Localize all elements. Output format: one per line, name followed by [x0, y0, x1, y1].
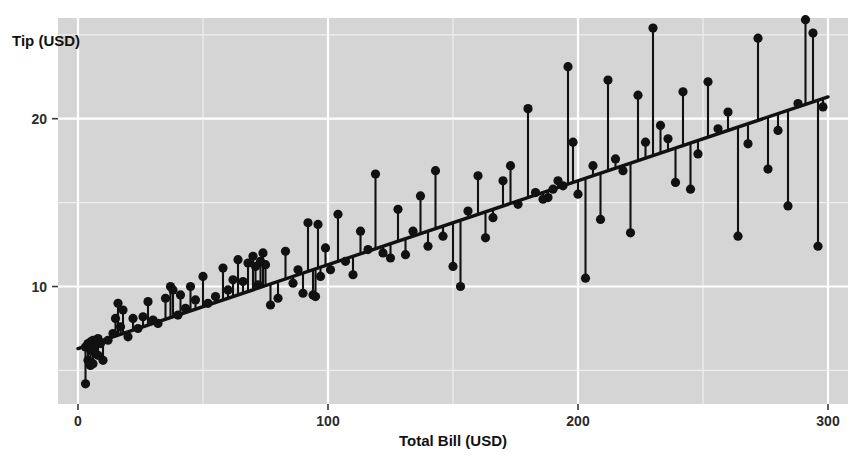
data-point: [386, 253, 395, 262]
data-point: [321, 243, 330, 252]
data-point: [513, 200, 522, 209]
data-point: [316, 272, 325, 281]
y-axis-title: Tip (USD): [12, 32, 80, 49]
data-point: [138, 312, 147, 321]
data-point: [133, 324, 142, 333]
data-point: [456, 282, 465, 291]
data-point: [211, 292, 220, 301]
data-point: [88, 359, 97, 368]
data-point: [463, 206, 472, 215]
data-point: [423, 242, 432, 251]
data-point: [818, 102, 827, 111]
data-point: [543, 193, 552, 202]
data-point: [363, 245, 372, 254]
data-point: [773, 126, 782, 135]
y-tick-label: 10: [31, 279, 47, 295]
data-point: [116, 322, 125, 331]
x-tick-label: 100: [316, 413, 340, 429]
data-point: [233, 255, 242, 264]
data-point: [111, 314, 120, 323]
data-point: [118, 305, 127, 314]
data-point: [808, 29, 817, 38]
data-point: [416, 191, 425, 200]
y-tick-label: 20: [31, 111, 47, 127]
data-point: [168, 285, 177, 294]
data-point: [143, 297, 152, 306]
data-point: [431, 166, 440, 175]
data-point: [98, 356, 107, 365]
data-point: [311, 292, 320, 301]
data-point: [753, 34, 762, 43]
data-point: [253, 280, 262, 289]
data-point: [813, 242, 822, 251]
data-point: [173, 310, 182, 319]
x-tick-label: 200: [566, 413, 590, 429]
data-point: [293, 265, 302, 274]
data-point: [641, 138, 650, 147]
data-point: [371, 169, 380, 178]
data-point: [341, 257, 350, 266]
data-point: [348, 270, 357, 279]
data-point: [438, 232, 447, 241]
data-point: [633, 91, 642, 100]
data-point: [228, 275, 237, 284]
data-point: [161, 294, 170, 303]
data-point: [523, 104, 532, 113]
data-point: [573, 190, 582, 199]
data-point: [618, 166, 627, 175]
data-point: [783, 201, 792, 210]
data-point: [763, 164, 772, 173]
data-point: [678, 87, 687, 96]
data-point: [378, 248, 387, 257]
data-point: [793, 99, 802, 108]
data-point: [531, 188, 540, 197]
data-point: [603, 75, 612, 84]
data-point: [261, 260, 270, 269]
data-point: [281, 247, 290, 256]
data-point: [393, 205, 402, 214]
data-point: [266, 300, 275, 309]
data-point: [473, 171, 482, 180]
data-point: [81, 379, 90, 388]
data-point: [333, 210, 342, 219]
data-point: [703, 77, 712, 86]
data-point: [663, 134, 672, 143]
data-point: [733, 232, 742, 241]
data-point: [596, 215, 605, 224]
data-point: [671, 178, 680, 187]
x-axis-title: Total Bill (USD): [399, 432, 507, 449]
data-point: [258, 248, 267, 257]
data-point: [248, 252, 257, 261]
x-tick-label: 300: [816, 413, 840, 429]
data-point: [723, 107, 732, 116]
data-point: [626, 228, 635, 237]
data-point: [506, 161, 515, 170]
data-point: [648, 23, 657, 32]
data-point: [313, 220, 322, 229]
data-point: [181, 304, 190, 313]
data-point: [356, 227, 365, 236]
data-point: [108, 329, 117, 338]
data-point: [743, 139, 752, 148]
data-point: [218, 263, 227, 272]
data-point: [568, 138, 577, 147]
data-point: [448, 262, 457, 271]
data-point: [481, 233, 490, 242]
data-point: [123, 332, 132, 341]
data-point: [303, 218, 312, 227]
data-point: [298, 289, 307, 298]
data-point: [223, 285, 232, 294]
data-point: [548, 185, 557, 194]
data-point: [408, 227, 417, 236]
chart-figure: 0100200300 1020 Tip (USD) Total Bill (US…: [0, 0, 865, 467]
data-point: [498, 176, 507, 185]
data-point: [273, 294, 282, 303]
data-point: [488, 213, 497, 222]
data-point: [128, 314, 137, 323]
data-point: [191, 295, 200, 304]
scatter-residual-plot: 0100200300 1020 Tip (USD) Total Bill (US…: [0, 0, 865, 467]
data-point: [203, 299, 212, 308]
data-point: [558, 181, 567, 190]
data-point: [686, 185, 695, 194]
data-point: [288, 279, 297, 288]
